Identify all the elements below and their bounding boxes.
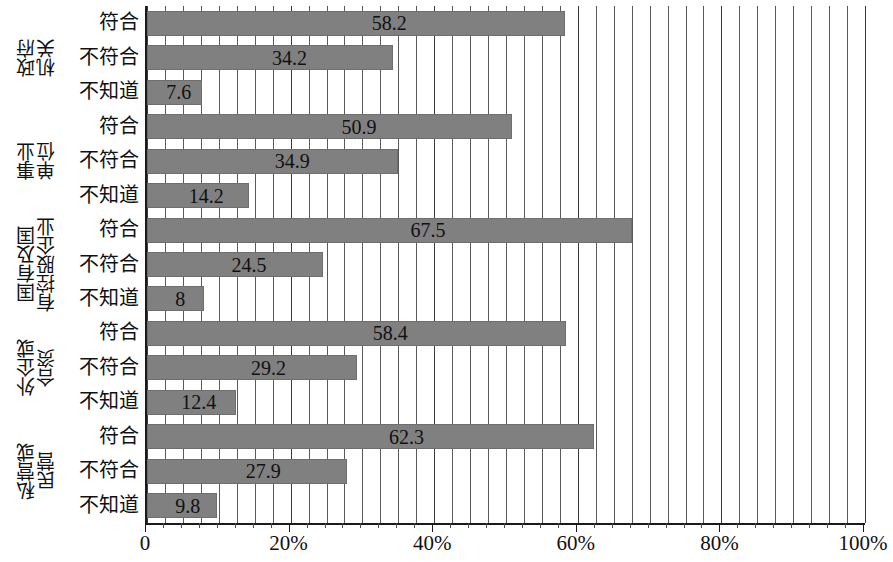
bar-value-label: 9.8 [175,496,200,516]
x-tick-minor [414,523,415,528]
bar-row: 12.4 [147,390,865,415]
bar-value-label: 50.9 [341,117,376,137]
x-tick-minor [378,523,379,528]
x-tick-minor [809,523,810,528]
x-tick-minor [648,523,649,528]
response-label: 符合 [99,12,139,32]
x-tick-minor [504,523,505,528]
bar-value-label: 34.2 [272,48,307,68]
bar-row: 67.5 [147,218,865,243]
x-tick-minor [235,523,236,528]
x-tick-minor [845,523,846,528]
x-tick-label: 0 [140,533,151,554]
bar-value-label: 34.9 [275,151,310,171]
x-tick-minor [217,523,218,528]
response-label: 符合 [99,219,139,239]
response-label: 不符合 [79,150,139,170]
response-label: 不知道 [79,391,139,411]
bar-row: 29.2 [147,355,865,380]
x-tick-minor [827,523,828,528]
response-label: 符合 [99,116,139,136]
x-tick-minor [253,523,254,528]
response-label: 不符合 [79,254,139,274]
x-tick-minor [540,523,541,528]
x-tick-minor [450,523,451,528]
x-tick-minor [612,523,613,528]
bar-row: 50.9 [147,114,865,139]
bar-row: 8 [147,286,865,311]
x-tick-minor [684,523,685,528]
x-tick-minor [522,523,523,528]
x-tick-minor [396,523,397,528]
x-tick-label: 60% [557,533,596,554]
bar[interactable] [147,424,594,449]
bar-value-label: 12.4 [181,392,216,412]
bar-value-label: 58.4 [373,323,408,343]
bar[interactable] [147,149,398,174]
response-label: 不符合 [79,47,139,67]
x-tick-label: 80% [700,533,739,554]
bar-row: 34.2 [147,45,865,70]
x-tick-minor [773,523,774,528]
bar-value-label: 62.3 [389,427,424,447]
x-tick-minor [163,523,164,528]
bar-row: 14.2 [147,183,865,208]
bar-value-label: 7.6 [166,82,191,102]
bar-row: 7.6 [147,80,865,105]
bar-value-label: 67.5 [411,220,446,240]
bar-row: 58.4 [147,321,865,346]
x-tick-minor [701,523,702,528]
x-tick-minor [737,523,738,528]
x-tick-minor [271,523,272,528]
response-label: 不符合 [79,357,139,377]
x-tick-minor [755,523,756,528]
response-label: 不知道 [79,185,139,205]
bar[interactable] [147,45,393,70]
bar[interactable] [147,114,512,139]
bar-value-label: 24.5 [232,255,267,275]
bar-value-label: 8 [175,289,185,309]
x-tick-minor [666,523,667,528]
x-tick-minor [325,523,326,528]
x-tick-minor [558,523,559,528]
bar[interactable] [147,11,565,36]
bar-row: 62.3 [147,424,865,449]
gridline-major [865,6,866,523]
response-label-axis: 符合不符合不知道符合不符合不知道符合不符合不知道符合不符合不知道符合不符合不知道 [0,0,145,562]
bar-rows: 58.234.27.650.934.914.267.524.5858.429.2… [147,6,865,523]
x-tick-minor [791,523,792,528]
x-tick-label: 40% [413,533,452,554]
response-label: 符合 [99,322,139,342]
x-tick-minor [342,523,343,528]
bar-value-label: 29.2 [251,358,286,378]
plot-area: 58.234.27.650.934.914.267.524.5858.429.2… [145,6,865,523]
x-tick-minor [594,523,595,528]
bar-row: 34.9 [147,149,865,174]
x-tick-minor [199,523,200,528]
response-label: 不知道 [79,81,139,101]
x-tick-minor [468,523,469,528]
bar-value-label: 58.2 [372,13,407,33]
bar-value-label: 27.9 [246,461,281,481]
response-label: 不符合 [79,460,139,480]
x-tick-label: 20% [269,533,308,554]
bar-row: 24.5 [147,252,865,277]
x-tick-label: 100% [839,533,888,554]
x-tick-minor [486,523,487,528]
bar-row: 9.8 [147,493,865,518]
bar-row: 58.2 [147,11,865,36]
bar-row: 27.9 [147,459,865,484]
x-tick-minor [307,523,308,528]
bar-chart: 政府机关事业单位国有及国有控股企业外企或合资私营或民营 符合不符合不知道符合不符… [0,0,893,562]
x-tick-minor [181,523,182,528]
x-tick-minor [360,523,361,528]
response-label: 不知道 [79,288,139,308]
bar[interactable] [147,321,566,346]
x-tick-minor [630,523,631,528]
bar-value-label: 14.2 [189,186,224,206]
bar[interactable] [147,218,632,243]
response-label: 符合 [99,426,139,446]
response-label: 不知道 [79,495,139,515]
